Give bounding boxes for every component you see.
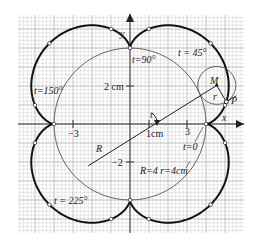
t0-leader-line xyxy=(195,127,203,142)
curve-marker xyxy=(52,122,56,126)
label-relation: R=4 r=4cm xyxy=(139,165,188,176)
curve-marker xyxy=(33,103,37,107)
curve-marker xyxy=(209,203,213,207)
label-1cm: 1cm xyxy=(146,128,163,139)
curve-marker xyxy=(109,217,113,221)
label-3: 3 xyxy=(185,126,190,137)
label-r: r xyxy=(213,91,217,102)
label-R: R xyxy=(95,143,102,154)
label-t45: t = 45° xyxy=(178,47,207,58)
curve-marker xyxy=(209,42,213,46)
curve-marker xyxy=(48,203,52,207)
label-t90: t=90° xyxy=(132,54,156,65)
label-neg2: −2 xyxy=(112,157,123,168)
curve-marker xyxy=(147,217,151,221)
label-2cm: 2 cm xyxy=(104,81,124,92)
curve-marker xyxy=(223,141,227,145)
curve-marker xyxy=(128,46,132,50)
label-t225: t = 225° xyxy=(54,195,88,206)
point-p xyxy=(224,100,228,104)
x-axis-label: x xyxy=(221,112,227,123)
label-t150: t=150° xyxy=(34,85,63,96)
label-P: P xyxy=(230,95,237,106)
label-M: M xyxy=(209,75,219,86)
label-t0: t=0 xyxy=(183,141,198,152)
curve-marker xyxy=(204,122,208,126)
y-axis-label: y xyxy=(119,28,125,39)
curve-marker xyxy=(147,27,151,31)
curve-marker xyxy=(48,42,52,46)
curve-marker xyxy=(109,27,113,31)
epicycloid-diagram: y x t=90° t = 45° t=150° t = 225° t=0 2 … xyxy=(0,0,258,247)
label-neg3: −3 xyxy=(68,128,79,139)
angle-t-arrow-icon xyxy=(154,120,160,126)
curve-marker xyxy=(33,141,37,145)
curve-marker xyxy=(128,198,132,202)
label-t: t xyxy=(150,109,153,120)
